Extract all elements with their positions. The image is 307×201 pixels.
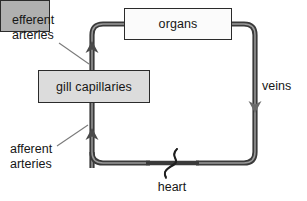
veins-label: veins xyxy=(262,79,291,94)
bottom-vessel-group xyxy=(92,152,150,163)
efferent-arteries-label: efferent arteries xyxy=(12,13,54,42)
circulation-diagram: organs gill capillaries efferent arterie… xyxy=(0,0,307,201)
heart-caption-label: heart xyxy=(148,180,196,195)
afferent-arteries-label: afferent arteries xyxy=(10,142,52,171)
efferent-artery-top-vessel xyxy=(92,24,126,70)
organs-node[interactable]: organs xyxy=(124,8,232,40)
veins-vessel-highlight xyxy=(196,24,255,163)
veins-vessel xyxy=(196,24,255,163)
ventral-aorta-vessel xyxy=(92,152,150,163)
efferent-top-corner-group xyxy=(92,24,126,70)
organs-label: organs xyxy=(159,17,198,31)
gill-capillaries-label: gill capillaries xyxy=(56,80,132,94)
veins-vessel-group xyxy=(196,24,255,163)
efferent-leader-line xyxy=(59,43,89,64)
gill-capillaries-node[interactable]: gill capillaries xyxy=(38,70,150,103)
afferent-leader-line xyxy=(57,125,88,146)
efferent-artery-top-highlight xyxy=(92,24,126,70)
